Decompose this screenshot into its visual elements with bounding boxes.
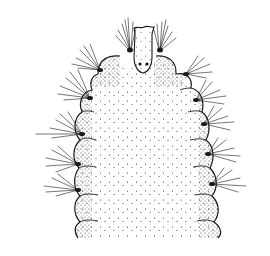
prostomium: [134, 26, 154, 73]
parapodium-right-1: [186, 56, 212, 78]
parapodium-left-5: [44, 174, 78, 196]
worm-illustration: [0, 0, 270, 256]
eye-spot-right: [145, 62, 148, 65]
eye-spot-left: [138, 62, 141, 65]
parapodium-left-4: [46, 146, 78, 172]
body-stipple: [70, 50, 225, 245]
parapodium-right-2: [196, 80, 226, 104]
parapodium-left-1: [72, 44, 100, 70]
parapodium-right-5: [212, 168, 246, 192]
chaetal-tuft-head-right: [154, 20, 176, 50]
chaetal-tuft-head-left: [116, 18, 136, 50]
illustration-canvas: stippled scientific illustration of the …: [0, 0, 270, 256]
